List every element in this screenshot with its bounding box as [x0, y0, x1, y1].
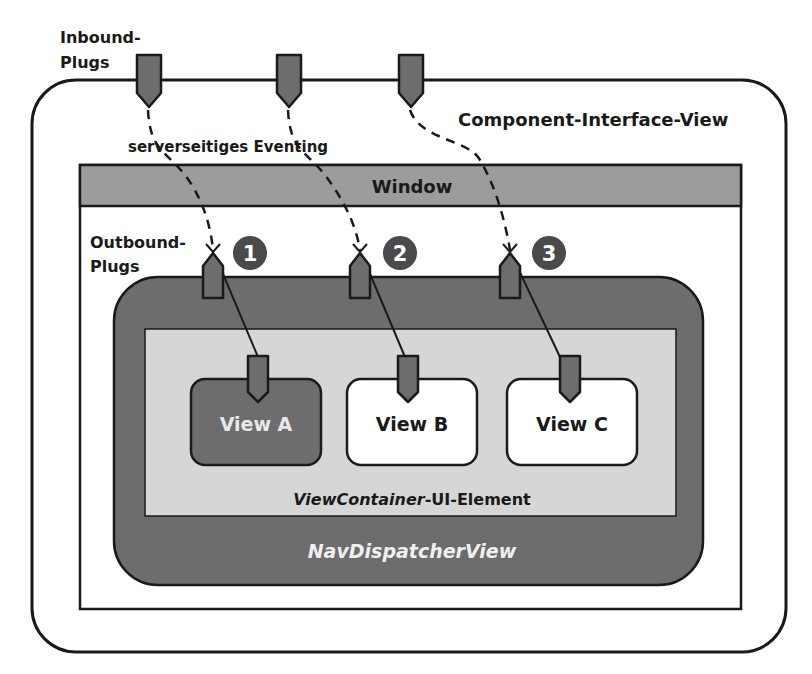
view-c-label: View C [536, 413, 608, 435]
marker-3-label: 3 [542, 242, 557, 266]
view-container-label: ViewContainer-UI-Element [293, 490, 531, 509]
inbound-plugs-label-line1: Inbound- [60, 28, 141, 47]
view-a-label: View A [220, 413, 293, 435]
nav-dispatcher-view-label: NavDispatcherView [308, 540, 517, 562]
view-c-inbound-plug[interactable] [560, 356, 580, 402]
view-container-label-rest: -UI-Element [425, 490, 531, 509]
marker-2-label: 2 [393, 242, 408, 266]
view-container-label-italic: ViewContainer [293, 490, 426, 509]
server-eventing-label: serverseitiges Eventing [128, 138, 328, 156]
view-b-label: View B [376, 413, 448, 435]
inbound-plugs-label-line2: Plugs [60, 53, 110, 72]
view-b-inbound-plug[interactable] [398, 356, 418, 402]
outbound-plugs-label-line1: Outbound- [90, 233, 186, 252]
window-label: Window [372, 176, 453, 197]
outbound-plugs-label-line2: Plugs [90, 257, 140, 276]
marker-1-label: 1 [243, 242, 258, 266]
view-a-inbound-plug[interactable] [248, 356, 268, 402]
component-interface-view-label: Component-Interface-View [458, 109, 728, 130]
